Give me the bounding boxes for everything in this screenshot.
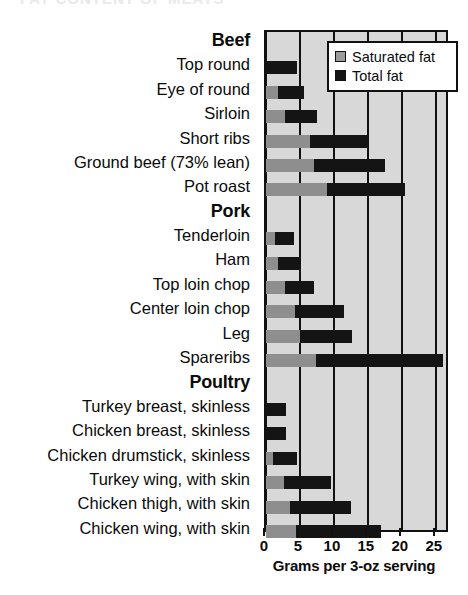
bar-segment-saturated-fat: [266, 281, 285, 294]
bar-row: [266, 105, 446, 129]
category-label-text: Chicken drumstick, skinless: [47, 447, 250, 464]
square-swatch-gray-icon: [335, 51, 346, 62]
category-label: Short ribs: [0, 126, 258, 150]
bar-segment-total-fat: [266, 61, 297, 74]
category-label-text: Chicken wing, with skin: [79, 520, 250, 537]
category-label: Tenderloin: [0, 223, 258, 247]
bar-segment-saturated-fat: [266, 232, 275, 245]
bar-segment-saturated-fat: [266, 476, 284, 489]
bar-segment-total-fat: [290, 501, 350, 514]
category-label-text: Top loin chop: [153, 276, 250, 293]
category-label-text: Sirloin: [204, 105, 250, 122]
bar-row: [266, 447, 446, 471]
legend-item-label: Saturated fat: [352, 49, 435, 65]
category-label: Sirloin: [0, 101, 258, 125]
x-axis: Grams per 3-oz serving 0510152025: [264, 528, 448, 588]
category-label: Chicken breast, skinless: [0, 418, 258, 442]
fat-content-bar-chart: BeefTop roundEye of roundSirloinShort ri…: [0, 0, 468, 595]
category-label-text: Ham: [215, 251, 250, 268]
bar-segment-saturated-fat: [266, 354, 316, 367]
category-label-text: Center loin chop: [130, 300, 250, 317]
bar-segment-total-fat: [278, 86, 304, 99]
bar-segment-total-fat: [300, 330, 352, 343]
bar-segment-total-fat: [266, 403, 286, 416]
bar-row: [266, 178, 446, 202]
bar-segment-saturated-fat: [266, 159, 314, 172]
legend-item: Saturated fat: [335, 47, 450, 66]
category-label: Spareribs: [0, 345, 258, 369]
category-label: Chicken drumstick, skinless: [0, 443, 258, 467]
bar-segment-total-fat: [295, 305, 345, 318]
bar-row: [266, 496, 446, 520]
axis-tick-10: [331, 528, 333, 536]
group-header-text: Poultry: [189, 373, 250, 391]
bar-segment-total-fat: [310, 135, 368, 148]
bar-segment-saturated-fat: [266, 86, 278, 99]
category-label: Ham: [0, 248, 258, 272]
bar-row: [266, 154, 446, 178]
group-header-text: Pork: [211, 202, 250, 220]
axis-tick-label: 20: [392, 537, 409, 554]
plot-inner: [266, 32, 446, 530]
legend-item-label: Total fat: [352, 68, 403, 84]
category-label-column: BeefTop roundEye of roundSirloinShort ri…: [0, 28, 258, 540]
category-label-text: Turkey wing, with skin: [89, 471, 250, 488]
category-label: Top loin chop: [0, 272, 258, 296]
axis-tick-label: 25: [425, 537, 442, 554]
axis-tick-0: [263, 528, 265, 536]
bar-segment-total-fat: [285, 110, 317, 123]
bar-row: [266, 471, 446, 495]
bar-row: [266, 398, 446, 422]
bar-segment-saturated-fat: [266, 183, 327, 196]
axis-tick-20: [399, 528, 401, 536]
square-swatch-black-icon: [335, 70, 346, 81]
category-label: Top round: [0, 52, 258, 76]
bar-row: [266, 300, 446, 324]
bar-segment-total-fat: [275, 232, 294, 245]
x-axis-title: Grams per 3-oz serving: [273, 557, 435, 574]
bar-row: [266, 422, 446, 446]
axis-tick-label: 0: [260, 537, 268, 554]
category-label-text: Leg: [222, 325, 250, 342]
bar-row: [266, 227, 446, 251]
category-label: Leg: [0, 321, 258, 345]
axis-tick-5: [297, 528, 299, 536]
category-label: Eye of round: [0, 77, 258, 101]
category-label-text: Tenderloin: [174, 227, 250, 244]
category-label-text: Top round: [177, 56, 250, 73]
group-header-pork: Pork: [0, 199, 258, 223]
bar-segment-total-fat: [316, 354, 443, 367]
bar-segment-saturated-fat: [266, 305, 295, 318]
category-label: Pot roast: [0, 174, 258, 198]
bar-segment-total-fat: [266, 427, 286, 440]
category-label: Turkey wing, with skin: [0, 467, 258, 491]
category-label: Ground beef (73% lean): [0, 150, 258, 174]
bar-segment-total-fat: [285, 281, 314, 294]
bar-row: [266, 349, 446, 373]
category-label-text: Chicken breast, skinless: [72, 422, 250, 439]
category-label: Chicken wing, with skin: [0, 516, 258, 540]
group-header-poultry: Poultry: [0, 369, 258, 393]
bar-segment-total-fat: [327, 183, 405, 196]
category-label: Center loin chop: [0, 296, 258, 320]
group-header-text: Beef: [212, 31, 250, 49]
category-label-text: Short ribs: [179, 130, 250, 147]
bar-row: [266, 130, 446, 154]
category-label: Chicken thigh, with skin: [0, 491, 258, 515]
category-label-text: Turkey breast, skinless: [82, 398, 250, 415]
bar-segment-total-fat: [314, 159, 385, 172]
bar-segment-saturated-fat: [266, 330, 300, 343]
category-label-text: Spareribs: [179, 349, 250, 366]
bar-segment-saturated-fat: [266, 501, 290, 514]
bar-segment-saturated-fat: [266, 135, 310, 148]
bar-segment-saturated-fat: [266, 110, 285, 123]
bar-segment-saturated-fat: [266, 257, 278, 270]
category-label-text: Chicken thigh, with skin: [78, 495, 250, 512]
axis-tick-15: [365, 528, 367, 536]
chart-legend: Saturated fatTotal fat: [327, 41, 458, 92]
axis-tick-25: [433, 528, 435, 536]
category-label-text: Eye of round: [156, 81, 250, 98]
bar-row: [266, 276, 446, 300]
bar-row: [266, 252, 446, 276]
axis-tick-label: 5: [294, 537, 302, 554]
